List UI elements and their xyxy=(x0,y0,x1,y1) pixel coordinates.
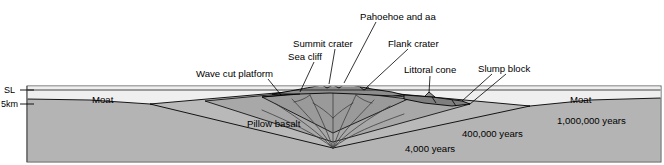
label-littoral-cone: Littoral cone xyxy=(404,64,456,75)
age-label-400000: 400,000 years xyxy=(462,128,523,139)
label-summit-crater: Summit crater xyxy=(293,38,354,49)
age-label-1000000: 1,000,000 years xyxy=(557,115,626,126)
label-slump-block: Slump block xyxy=(478,63,530,74)
leader-pahoehoe xyxy=(344,22,376,83)
leader-flank-crater xyxy=(366,49,408,88)
sea-level-axis-label: SL xyxy=(4,85,15,95)
label-pahoehoe-and-aa: Pahoehoe and aa xyxy=(360,11,436,22)
label-moat-right: Moat xyxy=(570,94,592,105)
label-flank-crater: Flank crater xyxy=(388,38,439,49)
depth-axis-label: 5km xyxy=(1,99,18,109)
diagram-canvas: SL 5km Wave cut platform Sea cliff Summi… xyxy=(0,0,664,165)
label-pillow-basalt: Pillow basalt xyxy=(247,118,301,129)
label-sea-cliff: Sea cliff xyxy=(288,51,322,62)
leader-summit-crater xyxy=(329,49,335,84)
label-wave-cut-platform: Wave cut platform xyxy=(196,68,273,79)
age-label-4000: 4,000 years xyxy=(405,143,455,154)
volcano-cross-section-diagram: SL 5km Wave cut platform Sea cliff Summi… xyxy=(0,0,664,165)
label-moat-left: Moat xyxy=(92,94,114,105)
